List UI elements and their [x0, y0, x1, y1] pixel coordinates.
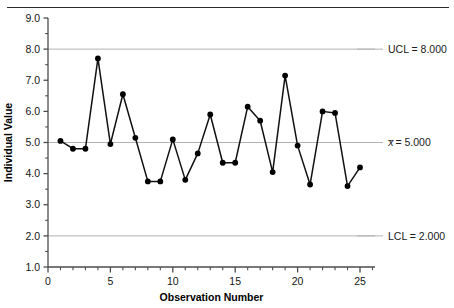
- data-point: [58, 138, 64, 144]
- data-point: [132, 135, 138, 141]
- x-axis: 0510152025: [45, 267, 375, 287]
- x-tick-label: 15: [229, 275, 241, 287]
- y-axis: 1.02.03.04.05.06.07.08.09.0: [25, 12, 48, 273]
- y-axis-title: Individual Value: [2, 103, 14, 183]
- y-tick-label: 2.0: [25, 230, 40, 242]
- data-point: [83, 146, 89, 152]
- control-limit-lines: [48, 49, 375, 236]
- y-tick-label: 4.0: [25, 167, 40, 179]
- data-point: [295, 143, 301, 149]
- y-tick-label: 8.0: [25, 43, 40, 55]
- data-point: [182, 177, 188, 183]
- limit-label-lcl: LCL = 2.000: [388, 230, 445, 242]
- x-tick-label: 10: [167, 275, 179, 287]
- data-point: [320, 108, 326, 114]
- data-point: [120, 91, 126, 97]
- axis-titles: Observation NumberIndividual Value: [2, 103, 263, 303]
- control-chart: 1.02.03.04.05.06.07.08.09.0 0510152025 U…: [0, 0, 454, 308]
- data-point: [157, 179, 163, 185]
- control-limit-labels: UCL = 8.000x– = 5.000LCL = 2.000: [357, 43, 447, 242]
- x-tick-label: 20: [292, 275, 304, 287]
- data-point: [232, 160, 238, 166]
- data-point: [257, 118, 263, 124]
- x-tick-label: 5: [107, 275, 113, 287]
- data-point: [95, 56, 101, 62]
- data-point: [307, 182, 313, 188]
- chart-canvas: 1.02.03.04.05.06.07.08.09.0 0510152025 U…: [0, 0, 454, 308]
- data-point: [70, 146, 76, 152]
- data-series: [58, 56, 363, 189]
- data-point: [108, 141, 114, 147]
- x-axis-title: Observation Number: [160, 291, 264, 303]
- x-tick-label: 25: [354, 275, 366, 287]
- data-point: [170, 136, 176, 142]
- x-tick-label: 0: [45, 275, 51, 287]
- y-tick-label: 6.0: [25, 105, 40, 117]
- data-point: [282, 73, 288, 79]
- data-point: [357, 165, 363, 171]
- limit-label-center: x– = 5.000: [387, 135, 431, 148]
- data-point: [220, 160, 226, 166]
- y-tick-label: 5.0: [25, 136, 40, 148]
- y-tick-label: 3.0: [25, 198, 40, 210]
- y-tick-label: 1.0: [25, 261, 40, 273]
- data-point: [195, 150, 201, 156]
- y-tick-label: 9.0: [25, 12, 40, 24]
- data-point: [245, 104, 251, 110]
- series-line: [60, 58, 360, 186]
- data-point: [145, 179, 151, 185]
- data-point: [207, 112, 213, 118]
- data-point: [332, 110, 338, 116]
- data-point: [270, 169, 276, 175]
- limit-label-ucl: UCL = 8.000: [388, 43, 447, 55]
- data-point: [345, 183, 351, 189]
- y-tick-label: 7.0: [25, 74, 40, 86]
